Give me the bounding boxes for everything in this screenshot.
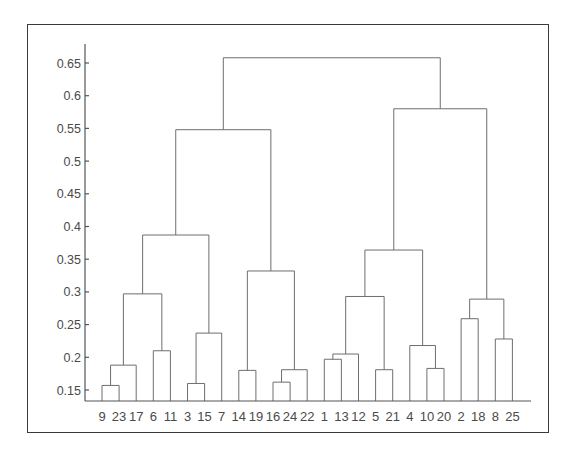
y-tick-label: 0.25: [57, 318, 81, 332]
dendrogram-chart: 0.150.20.250.30.350.40.450.50.550.60.65 …: [0, 0, 575, 455]
leaf-label-25: 25: [505, 409, 519, 424]
leaf-label-5: 5: [372, 409, 379, 424]
dendrogram-links: [102, 58, 512, 401]
leaf-label-7: 7: [218, 409, 225, 424]
cluster-link-c16: [346, 296, 384, 369]
cluster-link-c14: [333, 354, 359, 401]
cluster-link-c11: [247, 271, 294, 370]
cluster-link-c2: [111, 365, 137, 401]
leaf-label-13: 13: [334, 409, 348, 424]
y-tick-label: 0.45: [57, 187, 81, 201]
cluster-link-c24: [223, 58, 440, 130]
leaf-label-16: 16: [266, 409, 280, 424]
cluster-link-c13: [324, 359, 341, 401]
cluster-link-c3: [153, 351, 170, 401]
y-tick-label: 0.15: [57, 384, 81, 398]
cluster-link-c6: [196, 333, 222, 401]
leaf-label-3: 3: [184, 409, 191, 424]
leaf-label-2: 2: [457, 409, 464, 424]
leaf-label-19: 19: [249, 409, 263, 424]
leaf-label-6: 6: [150, 409, 157, 424]
leaf-label-12: 12: [351, 409, 365, 424]
y-tick-label: 0.6: [64, 89, 81, 103]
leaf-label-14: 14: [232, 409, 246, 424]
cluster-link-c7: [143, 235, 209, 333]
cluster-link-c20: [461, 319, 478, 401]
leaf-label-4: 4: [406, 409, 413, 424]
cluster-link-c8: [239, 370, 256, 401]
cluster-link-c23: [394, 109, 487, 299]
cluster-link-c4: [123, 294, 161, 365]
cluster-link-c18: [410, 346, 436, 401]
cluster-link-c17: [427, 368, 444, 401]
leaf-label-8: 8: [492, 409, 499, 424]
leaf-label-9: 9: [98, 409, 105, 424]
y-tick-label: 0.65: [57, 57, 81, 71]
leaf-label-1: 1: [321, 409, 328, 424]
y-tick-label: 0.55: [57, 122, 81, 136]
leaf-label-10: 10: [420, 409, 434, 424]
cluster-link-c12: [176, 130, 271, 271]
cluster-link-c21: [495, 339, 512, 401]
leaf-label-17: 17: [129, 409, 143, 424]
y-tick-label: 0.35: [57, 253, 81, 267]
cluster-link-c5: [188, 383, 205, 401]
cluster-link-c1: [102, 385, 119, 401]
cluster-link-c19: [365, 250, 423, 345]
y-tick-label: 0.4: [64, 220, 81, 234]
y-tick-label: 0.3: [64, 285, 81, 299]
leaf-label-24: 24: [283, 409, 297, 424]
leaf-label-22: 22: [300, 409, 314, 424]
leaf-label-11: 11: [164, 409, 178, 424]
leaf-label-23: 23: [112, 409, 126, 424]
cluster-link-c10: [282, 370, 308, 401]
cluster-link-c15: [376, 370, 393, 401]
y-tick-label: 0.5: [64, 155, 81, 169]
y-axis: 0.150.20.250.30.350.40.450.50.550.60.65: [57, 44, 89, 401]
leaf-labels: 9231761131571419162422113125214102021882…: [98, 409, 519, 424]
cluster-link-c9: [273, 382, 290, 401]
leaf-label-15: 15: [197, 409, 211, 424]
leaf-label-21: 21: [385, 409, 399, 424]
y-tick-label: 0.2: [64, 351, 81, 365]
leaf-label-20: 20: [437, 409, 451, 424]
leaf-label-18: 18: [471, 409, 485, 424]
